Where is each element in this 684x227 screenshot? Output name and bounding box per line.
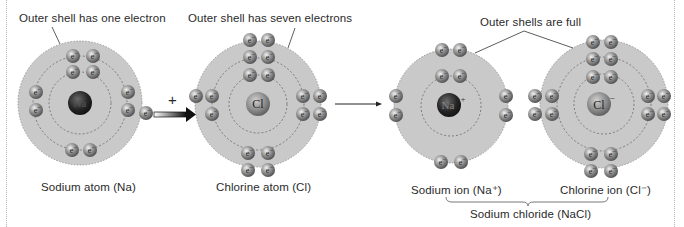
sodium-atom: Na xyxy=(18,41,153,165)
svg-text:+: + xyxy=(460,94,465,104)
plus-sign: + xyxy=(168,91,177,108)
chlorine-atom: Cl xyxy=(189,33,327,177)
sodium-nucleus-label: Na xyxy=(74,97,87,109)
chlorine-nucleus-label: Cl xyxy=(252,97,264,111)
chlorine-ion-label: Chlorine ion (Cl⁻) xyxy=(560,183,651,197)
compound-brace xyxy=(446,197,608,206)
na-note-leader xyxy=(52,27,60,44)
sodium-ion-label: Sodium ion (Na⁺) xyxy=(411,183,502,197)
svg-text:−: − xyxy=(609,93,614,103)
chlorine-atom-label: Chlorine atom (Cl) xyxy=(216,181,311,193)
cl-note-leader xyxy=(288,28,295,48)
reaction-arrow xyxy=(335,102,382,107)
chlorine-ion: Cl − xyxy=(528,35,671,178)
cl-outer-shell-note: Outer shell has seven electrons xyxy=(188,12,352,24)
sodium-ion: Na + xyxy=(389,43,513,169)
ions-note-leader-left xyxy=(475,31,524,53)
ions-note-leader-right xyxy=(524,31,573,48)
na-outer-shell-note: Outer shell has one electron xyxy=(19,12,166,24)
sodium-chloride-label: Sodium chloride (NaCl) xyxy=(470,208,591,220)
electron-transfer-arrow xyxy=(154,107,196,122)
chlorine-ion-nucleus-label: Cl xyxy=(593,98,605,112)
sodium-valence-electron xyxy=(139,106,153,120)
sodium-ion-nucleus-label: Na xyxy=(442,99,455,111)
ions-outer-shell-note: Outer shells are full xyxy=(480,16,581,28)
sodium-atom-label: Sodium atom (Na) xyxy=(41,181,136,193)
